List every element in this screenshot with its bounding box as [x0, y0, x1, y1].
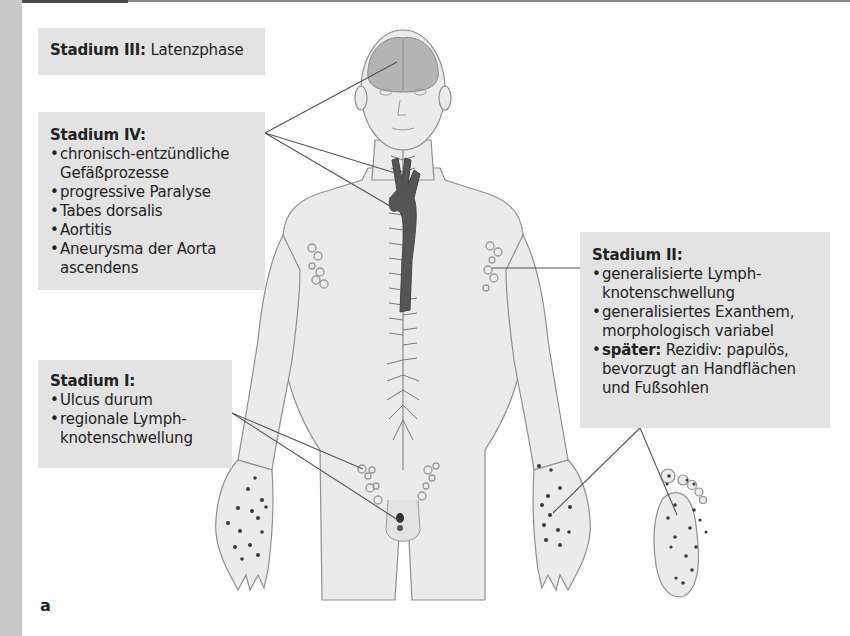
list-item: chronisch-entzündliche Gefäßprozesse [50, 145, 255, 183]
stage-2-title: Stadium II: [592, 246, 820, 265]
stage-2-list: generalisierte Lymph-knotenschwellung ge… [592, 265, 820, 398]
stage-3-text: Latenzphase [150, 41, 243, 59]
stage-2-box: Stadium II: generalisierte Lymph-knotens… [580, 232, 830, 428]
list-item: Aortitis [50, 221, 255, 240]
list-item: regionale Lymph-knotenschwellung [50, 410, 222, 448]
list-item: generalisiertes Exanthem, morphologisch … [592, 303, 820, 341]
list-item: später: Rezidiv: papulös, bevorzugt an H… [592, 341, 820, 398]
list-item: generalisierte Lymph-knotenschwellung [592, 265, 820, 303]
stage-4-list: chronisch-entzündliche Gefäßprozesse pro… [50, 145, 255, 278]
list-item: progressive Paralyse [50, 183, 255, 202]
stage-3-box: Stadium III: Latenzphase [38, 28, 265, 75]
stage-4-box: Stadium IV: chronisch-entzündliche Gefäß… [38, 112, 265, 290]
stage-1-title: Stadium I: [50, 372, 222, 391]
stage-3-title: Stadium III: [50, 41, 146, 59]
later-label: später: [602, 341, 661, 359]
panel-label: a [40, 596, 51, 615]
list-item: Aneurysma der Aorta ascendens [50, 240, 255, 278]
stage-1-box: Stadium I: Ulcus durum regionale Lymph-k… [38, 360, 232, 468]
list-item: Tabes dorsalis [50, 202, 255, 221]
list-item: Ulcus durum [50, 391, 222, 410]
stage-1-list: Ulcus durum regionale Lymph-knotenschwel… [50, 391, 222, 448]
stage-4-title: Stadium IV: [50, 126, 255, 145]
